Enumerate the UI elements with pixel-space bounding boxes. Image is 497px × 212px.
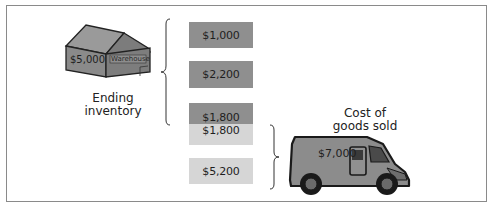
cogs-box-2: $5,200 — [189, 158, 253, 184]
caption-line-2: inventory — [78, 105, 148, 118]
delivery-van-icon — [287, 134, 417, 196]
warehouse-icon — [64, 20, 156, 78]
caption-line-2: goods sold — [320, 120, 410, 133]
inventory-box-3: $1,800 — [189, 103, 253, 124]
warehouse-value: $5,000 — [70, 54, 105, 65]
inventory-box-2: $2,200 — [189, 61, 253, 88]
right-brace-icon — [269, 124, 281, 190]
van-value: $7,000 — [318, 147, 357, 160]
warehouse-sign: Warehouse — [111, 55, 150, 63]
left-brace-icon — [158, 18, 172, 126]
cogs-box-1: $1,800 — [189, 124, 253, 145]
cogs-caption: Cost of goods sold — [320, 107, 410, 133]
inventory-box-1: $1,000 — [189, 22, 253, 48]
ending-inventory-caption: Ending inventory — [78, 92, 148, 118]
